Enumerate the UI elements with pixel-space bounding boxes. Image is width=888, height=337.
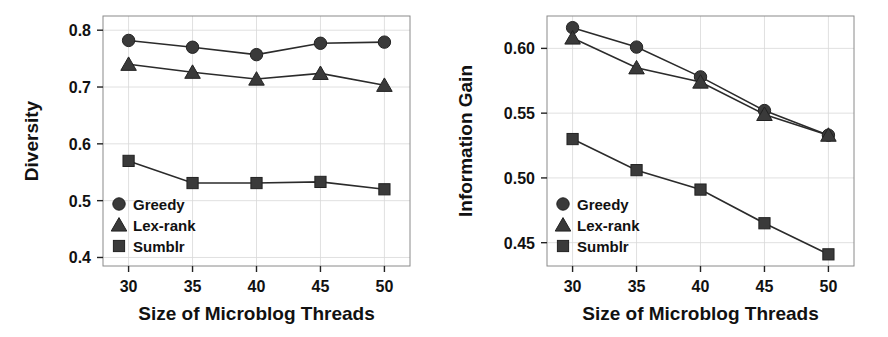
legend-label-sumblr: Sumblr xyxy=(133,238,185,255)
x-axis-title: Size of Microblog Threads xyxy=(138,303,374,324)
data-point-sumblr xyxy=(251,177,262,188)
data-point-lex-rank xyxy=(565,31,581,44)
y-tick-label: 0.60 xyxy=(504,40,535,57)
data-point-sumblr xyxy=(823,249,834,260)
x-tick-label: 50 xyxy=(820,278,838,295)
data-point-lex-rank xyxy=(121,57,137,70)
data-point-greedy xyxy=(314,37,326,49)
data-point-sumblr xyxy=(759,218,770,229)
y-tick-label: 0.6 xyxy=(69,136,91,153)
y-axis-title: Information Gain xyxy=(455,65,476,217)
x-axis-title: Size of Microblog Threads xyxy=(582,303,818,324)
figure-container: 0.40.50.60.70.83035404550Size of Microbl… xyxy=(0,0,888,337)
chart-panel-diversity: 0.40.50.60.70.83035404550Size of Microbl… xyxy=(0,0,444,337)
data-point-greedy xyxy=(250,48,262,60)
y-axis-title: Diversity xyxy=(21,100,42,181)
y-tick-label: 0.7 xyxy=(69,79,91,96)
legend-marker-greedy xyxy=(557,198,569,210)
data-point-sumblr xyxy=(631,165,642,176)
x-tick-label: 40 xyxy=(692,278,710,295)
diversity-plot: 0.40.50.60.70.83035404550Size of Microbl… xyxy=(0,0,444,337)
plot-group: 0.450.500.550.603035404550Size of Microb… xyxy=(455,16,854,324)
data-point-sumblr xyxy=(123,155,134,166)
x-tick-label: 45 xyxy=(756,278,774,295)
plot-group: 0.40.50.60.70.83035404550Size of Microbl… xyxy=(21,16,410,324)
information-gain-plot: 0.450.500.550.603035404550Size of Microb… xyxy=(444,0,888,337)
x-tick-label: 35 xyxy=(628,278,646,295)
x-tick-label: 50 xyxy=(376,278,394,295)
data-point-greedy xyxy=(378,36,390,48)
legend-label-sumblr: Sumblr xyxy=(577,238,629,255)
y-tick-label: 0.4 xyxy=(69,249,91,266)
data-point-sumblr xyxy=(187,177,198,188)
y-tick-label: 0.55 xyxy=(504,105,535,122)
legend-label-greedy: Greedy xyxy=(133,196,185,213)
legend-label-greedy: Greedy xyxy=(577,196,629,213)
y-tick-label: 0.50 xyxy=(504,170,535,187)
legend-marker-sumblr xyxy=(557,240,568,251)
legend-marker-greedy xyxy=(113,198,125,210)
data-point-sumblr xyxy=(695,184,706,195)
data-point-sumblr xyxy=(567,133,578,144)
legend-marker-lex-rank xyxy=(555,218,571,231)
y-tick-label: 0.8 xyxy=(69,22,91,39)
data-point-lex-rank xyxy=(313,66,329,79)
legend-marker-sumblr xyxy=(113,240,124,251)
chart-panel-information-gain: 0.450.500.550.603035404550Size of Microb… xyxy=(444,0,888,337)
data-point-sumblr xyxy=(315,176,326,187)
data-point-sumblr xyxy=(379,184,390,195)
x-tick-label: 30 xyxy=(564,278,582,295)
x-tick-label: 45 xyxy=(312,278,330,295)
x-tick-label: 40 xyxy=(248,278,266,295)
x-tick-label: 30 xyxy=(120,278,138,295)
y-tick-label: 0.5 xyxy=(69,193,91,210)
data-point-lex-rank xyxy=(629,60,645,73)
data-point-greedy xyxy=(122,34,134,46)
data-point-greedy xyxy=(186,41,198,53)
legend-label-lex-rank: Lex-rank xyxy=(133,217,196,234)
legend-label-lex-rank: Lex-rank xyxy=(577,217,640,234)
x-tick-label: 35 xyxy=(184,278,202,295)
y-tick-label: 0.45 xyxy=(504,235,535,252)
legend-marker-lex-rank xyxy=(111,218,127,231)
data-point-greedy xyxy=(630,41,642,53)
